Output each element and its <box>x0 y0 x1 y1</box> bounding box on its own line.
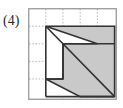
figure-number-label: (4) <box>3 13 19 29</box>
geometry-diagram <box>28 8 117 100</box>
figure-container: (4) <box>0 0 123 108</box>
shape-group <box>46 26 115 96</box>
figure-panel <box>28 8 117 100</box>
